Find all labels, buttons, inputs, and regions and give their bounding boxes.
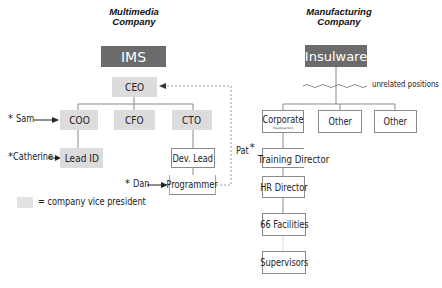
ceo-label: CEO: [125, 81, 144, 94]
person-sam: * Sam: [8, 113, 38, 124]
box-coo: COO: [60, 110, 98, 130]
box-ceo: CEO: [112, 77, 157, 97]
legend-label: = company vice president: [38, 196, 146, 207]
programmer-label: Programmer: [167, 179, 218, 190]
coo-label: COO: [69, 114, 90, 127]
hr-director-label: HR Director: [260, 182, 307, 193]
training-director-label: Training Director: [258, 153, 329, 165]
unrelated-text: unrelated positions: [372, 79, 439, 89]
cto-label: CTO: [183, 114, 202, 127]
box-corporate: Corporate Headquarters: [262, 110, 304, 133]
person-catherine: *Catherine: [8, 151, 62, 162]
box-lead-id: Lead ID: [60, 148, 103, 168]
catherine-label: Catherine: [13, 151, 53, 162]
title-line-2: Company: [296, 17, 382, 27]
brand-box-insulware: Insulware: [305, 45, 367, 67]
person-pat: Pat*: [236, 145, 257, 156]
star-icon: *: [125, 178, 130, 189]
box-supervisors: Supervisors: [262, 251, 306, 274]
legend-text: = company vice president: [38, 196, 170, 207]
dev-lead-label: Dev. Lead: [173, 153, 213, 164]
brand-label: IMS: [121, 49, 146, 65]
other-label: Other: [328, 116, 351, 127]
box-cto: CTO: [172, 110, 212, 130]
corporate-sub-label: Headquarters: [263, 126, 303, 130]
star-icon: *: [8, 113, 13, 124]
brand-label: Insulware: [305, 49, 367, 64]
box-training-director: Training Director: [262, 148, 304, 168]
box-66-facilities: 66 Facilities: [262, 213, 306, 236]
lead-id-label: Lead ID: [64, 152, 98, 165]
person-dan: * Dan: [125, 178, 153, 189]
dan-label: Dan: [133, 178, 150, 189]
pat-label: Pat: [236, 145, 249, 156]
cfo-label: CFO: [125, 114, 144, 127]
corporate-label: Corporate: [263, 114, 304, 125]
sam-label: Sam: [16, 113, 34, 124]
legend-swatch-vp: [17, 197, 33, 208]
brand-box-ims: IMS: [101, 46, 166, 67]
supervisors-label: Supervisors: [260, 257, 308, 268]
box-cfo: CFO: [114, 110, 155, 130]
box-dev-lead: Dev. Lead: [171, 148, 215, 168]
box-hr-director: HR Director: [262, 176, 305, 198]
facilities-label: 66 Facilities: [260, 219, 308, 230]
box-other-2: Other: [374, 110, 417, 133]
connector-lines: [0, 0, 442, 288]
box-programmer: Programmer: [169, 175, 216, 195]
right-org-title: Manufacturing Company: [296, 7, 382, 27]
box-other-1: Other: [318, 110, 362, 133]
title-line-2: Company: [94, 17, 174, 27]
unrelated-positions-label: unrelated positions: [372, 79, 442, 89]
other-label: Other: [384, 116, 407, 127]
star-icon: *: [250, 142, 255, 153]
left-org-title: Multimedia Company: [94, 7, 174, 27]
